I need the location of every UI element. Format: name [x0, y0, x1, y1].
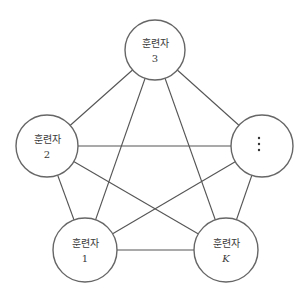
node-number: 2 — [44, 149, 50, 160]
trainer-network-diagram: 훈련자 3 훈련자 2 훈련자 1 훈련자 K — [0, 0, 307, 305]
node-ellipsis — [231, 115, 293, 177]
node-trainer-2: 훈련자 2 — [16, 115, 78, 177]
node-circle — [16, 115, 78, 177]
node-trainer-3: 훈련자 3 — [125, 20, 185, 80]
node-number: K — [221, 253, 230, 264]
node-trainer-k: 훈련자 K — [194, 218, 258, 282]
node-number: 1 — [82, 253, 88, 264]
node-label: 훈련자 — [72, 237, 99, 249]
node-circle — [231, 115, 293, 177]
node-circle — [125, 20, 185, 80]
node-number: 3 — [152, 53, 158, 64]
node-trainer-1: 훈련자 1 — [53, 218, 117, 282]
node-label: 훈련자 — [142, 37, 169, 49]
node-label: 훈련자 — [213, 237, 240, 249]
node-circle — [194, 218, 258, 282]
node-circle — [53, 218, 117, 282]
nodes-group: 훈련자 3 훈련자 2 훈련자 1 훈련자 K — [16, 20, 293, 282]
node-label: 훈련자 — [34, 133, 61, 145]
